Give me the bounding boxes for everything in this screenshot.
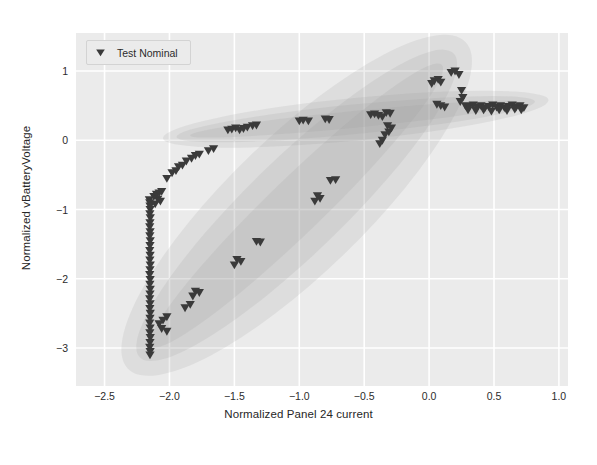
confidence-band-steep-trend-band-layer-2 (133, 45, 461, 365)
y-axis-label: Normalized vBatteryVoltage (20, 88, 32, 308)
chart-figure: Test Nominal Normalized Panel 24 current… (0, 0, 597, 465)
x-tick-label-2: −1.5 (224, 390, 245, 402)
x-tick-label-6: 0.5 (487, 390, 502, 402)
y-tick-label-1: 0 (62, 134, 68, 146)
y-tick-label-0: 1 (62, 65, 68, 77)
x-axis-label: Normalized Panel 24 current (0, 408, 597, 420)
plot-area (76, 33, 568, 386)
y-tick-label-3: −2 (56, 273, 68, 285)
x-tick-label-4: −0.5 (354, 390, 375, 402)
x-tick-label-3: −1.0 (289, 390, 310, 402)
x-tick-label-0: −2.5 (94, 390, 115, 402)
legend[interactable]: Test Nominal (86, 40, 191, 65)
y-tick-label-2: −1 (56, 204, 68, 216)
x-tick-label-7: 1.0 (552, 390, 567, 402)
plot-canvas (76, 33, 568, 386)
legend-label-test-nominal: Test Nominal (117, 47, 178, 59)
x-tick-label-1: −2.0 (159, 390, 180, 402)
triangle-down-marker-icon (95, 47, 106, 58)
y-tick-label-4: −3 (56, 342, 68, 354)
x-tick-label-5: 0.0 (422, 390, 437, 402)
